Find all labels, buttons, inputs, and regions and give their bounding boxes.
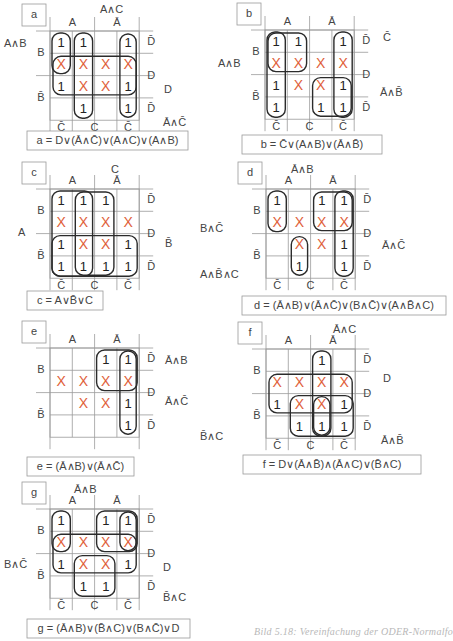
implicant-term-label: D bbox=[163, 561, 171, 573]
axis-label-c: C bbox=[91, 279, 99, 291]
implicant-term-label: C̄ bbox=[383, 31, 391, 43]
dont-care-cell: X bbox=[339, 374, 349, 390]
implicant-term-label: Ā∧B bbox=[291, 163, 314, 175]
implicant-term-label: D bbox=[164, 83, 172, 95]
dont-care-cell: X bbox=[317, 236, 327, 252]
axis-label-d: D bbox=[363, 387, 371, 399]
one-cell: 1 bbox=[339, 34, 346, 49]
dont-care-cell: X bbox=[317, 374, 327, 390]
dont-care-cell: X bbox=[295, 374, 305, 390]
implicant-term-label: B∧C̄ bbox=[200, 222, 223, 234]
axis-label-d-bar: D̄ bbox=[363, 193, 371, 205]
one-cell: 1 bbox=[273, 34, 280, 49]
one-cell: 1 bbox=[58, 557, 65, 572]
one-cell: 1 bbox=[80, 259, 87, 274]
axis-label-d-bar: D̄ bbox=[147, 352, 155, 364]
one-cell: 1 bbox=[340, 259, 347, 274]
one-cell: 1 bbox=[58, 79, 65, 94]
axis-label-d: D bbox=[147, 69, 155, 81]
axis-label-c-bar: C̄ bbox=[272, 120, 280, 132]
axis-label-a-bar: Ā bbox=[329, 334, 337, 346]
axis-label-a-bar: Ā bbox=[113, 333, 121, 345]
axis-label-b: B bbox=[37, 46, 44, 58]
implicant-term-label: Ā∧C̄ bbox=[165, 395, 188, 407]
axis-label-d-bar: D̄ bbox=[147, 513, 155, 525]
implicant-term-label: B̄∧C bbox=[163, 591, 186, 603]
axis-label-b: B bbox=[37, 363, 44, 375]
one-cell: 1 bbox=[274, 193, 281, 208]
implicant-term-label: Ā∧B bbox=[165, 354, 188, 366]
dont-care-cell: X bbox=[56, 56, 66, 72]
one-cell: 1 bbox=[318, 419, 325, 434]
axis-label-b: B bbox=[253, 364, 260, 376]
axis-label-c-bar: C̄ bbox=[124, 279, 132, 291]
axis-label-b-bar: B̄ bbox=[37, 408, 44, 420]
one-cell: 1 bbox=[124, 35, 131, 50]
one-cell: 1 bbox=[340, 419, 347, 434]
karnaugh-map-b: bAĀBB̄D̄DD̄C̄CC̄111XXXX1XX1111C̄A∧BĀ∧B̄b… bbox=[218, 3, 403, 154]
axis-label-d: D bbox=[147, 547, 155, 559]
axis-label-b: B bbox=[252, 45, 259, 57]
axis-label-b-bar: B̄ bbox=[253, 249, 260, 261]
axis-label-a: A bbox=[69, 494, 77, 506]
dont-care-cell: X bbox=[123, 56, 133, 72]
one-cell: 1 bbox=[58, 193, 65, 208]
karnaugh-map-g: gAĀBB̄D̄DD̄C̄CC̄111XXXX1XX111Ā∧BB∧C̄DB̄∧… bbox=[4, 482, 190, 638]
one-cell: 1 bbox=[124, 418, 131, 433]
equation-text: e = (Ā∧B)∨(Ā∧C̄) bbox=[37, 460, 124, 472]
dont-care-cell: X bbox=[101, 395, 111, 411]
dont-care-cell: X bbox=[101, 56, 111, 72]
dont-care-cell: X bbox=[56, 373, 66, 389]
implicant-term-label: D bbox=[383, 372, 391, 384]
axis-label-d: D bbox=[363, 227, 371, 239]
dont-care-cell: X bbox=[101, 534, 111, 550]
one-cell: 1 bbox=[295, 34, 302, 49]
axis-label-c: C bbox=[307, 279, 315, 291]
dont-care-cell: X bbox=[101, 373, 111, 389]
implicant-term-label: A∧B bbox=[4, 37, 27, 49]
axis-label-b: B bbox=[37, 524, 44, 536]
one-cell: 1 bbox=[273, 78, 280, 93]
one-cell: 1 bbox=[80, 101, 87, 116]
axis-label-c-bar: C̄ bbox=[124, 599, 132, 611]
one-cell: 1 bbox=[80, 35, 87, 50]
one-cell: 1 bbox=[102, 193, 109, 208]
dont-care-cell: X bbox=[79, 556, 89, 572]
dont-care-cell: X bbox=[56, 214, 66, 230]
dont-care-cell: X bbox=[79, 78, 89, 94]
implicant-term-label: A∧B bbox=[218, 57, 241, 69]
axis-label-c: C bbox=[306, 120, 314, 132]
map-id-label: d bbox=[247, 166, 253, 178]
map-id-label: g bbox=[31, 486, 37, 498]
karnaugh-map-d: dAĀBB̄D̄DD̄C̄CC̄111XXXXXX111Ā∧BB∧C̄Ā∧C̄A… bbox=[200, 162, 446, 315]
dont-care-cell: X bbox=[294, 55, 304, 71]
axis-label-d-bar: D̄ bbox=[147, 260, 155, 272]
equation-text: f = D∨(Ā∧B̄)∧(Ā∧C)∨(B̄∧C) bbox=[263, 458, 402, 470]
dont-care-cell: X bbox=[123, 534, 133, 550]
dont-care-cell: X bbox=[339, 214, 349, 230]
implicant-term-label: C bbox=[111, 163, 119, 175]
one-cell: 1 bbox=[296, 419, 303, 434]
axis-label-b: B bbox=[37, 204, 44, 216]
karnaugh-map-a: aAĀBB̄D̄DD̄C̄CC̄111XXXX1XX111A∧BA∧CDĀ∧C̄… bbox=[4, 3, 188, 150]
axis-label-d-bar: D̄ bbox=[147, 580, 155, 592]
implicant-term-label: Ā∧B̄ bbox=[381, 434, 404, 446]
axis-label-a: A bbox=[284, 15, 292, 27]
one-cell: 1 bbox=[58, 237, 65, 252]
one-cell: 1 bbox=[124, 557, 131, 572]
implicant-term-label: B̄ bbox=[165, 237, 172, 249]
dont-care-cell: X bbox=[295, 236, 305, 252]
karnaugh-map-c: cAĀBB̄D̄DD̄C̄CC̄111XXXX1XX11111CAB̄c = A… bbox=[18, 162, 172, 310]
dont-care-cell: X bbox=[123, 373, 133, 389]
axis-label-d-bar: D̄ bbox=[363, 420, 371, 432]
one-cell: 1 bbox=[340, 193, 347, 208]
one-cell: 1 bbox=[318, 353, 325, 368]
one-cell: 1 bbox=[274, 397, 281, 412]
axis-label-d-bar: D̄ bbox=[147, 35, 155, 47]
implicant-term-label: Ā∧C̄ bbox=[163, 116, 186, 128]
implicant-term-label: B∧C̄ bbox=[4, 558, 27, 570]
dont-care-cell: X bbox=[338, 55, 348, 71]
figure-caption: Bild 5.18: Vereinfachung der ODER-Normal… bbox=[254, 626, 453, 637]
dont-care-cell: X bbox=[56, 534, 66, 550]
one-cell: 1 bbox=[80, 579, 87, 594]
